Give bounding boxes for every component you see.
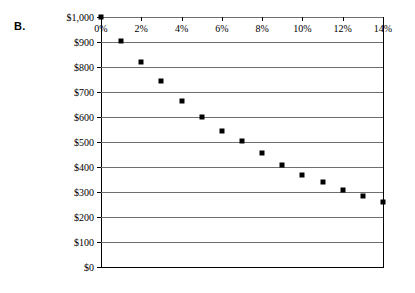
y-axis-tick-label: $0 bbox=[84, 262, 94, 273]
y-tick-mark bbox=[97, 192, 101, 193]
x-tick-mark bbox=[222, 17, 223, 21]
gridline bbox=[101, 267, 383, 268]
plot-right-border bbox=[383, 17, 384, 268]
y-axis-tick-label: $900 bbox=[74, 37, 94, 48]
data-point bbox=[260, 151, 265, 156]
x-axis-tick-label: 0% bbox=[94, 23, 107, 34]
data-point bbox=[119, 38, 124, 43]
data-point bbox=[240, 138, 245, 143]
data-point bbox=[320, 180, 325, 185]
y-tick-mark bbox=[97, 42, 101, 43]
y-axis-tick-label: $1,000 bbox=[67, 12, 95, 23]
y-tick-mark bbox=[97, 217, 101, 218]
y-axis-tick-label: $700 bbox=[74, 87, 94, 98]
data-point bbox=[360, 193, 365, 198]
gridline bbox=[101, 117, 383, 118]
scatter-plot-area: $0$100$200$300$400$500$600$700$800$900$1… bbox=[101, 17, 383, 267]
x-tick-mark bbox=[182, 17, 183, 21]
x-axis-tick-label: 8% bbox=[255, 23, 268, 34]
data-point bbox=[219, 128, 224, 133]
gridline bbox=[101, 67, 383, 68]
y-tick-mark bbox=[97, 242, 101, 243]
x-axis-tick-label: 4% bbox=[175, 23, 188, 34]
y-axis-tick-label: $400 bbox=[74, 162, 94, 173]
x-tick-mark bbox=[302, 17, 303, 21]
y-tick-mark bbox=[97, 92, 101, 93]
data-point bbox=[99, 15, 104, 20]
data-point bbox=[199, 115, 204, 120]
x-tick-mark bbox=[383, 17, 384, 21]
data-point bbox=[280, 162, 285, 167]
data-point bbox=[381, 200, 386, 205]
data-point bbox=[300, 172, 305, 177]
gridline bbox=[101, 242, 383, 243]
x-axis-tick-label: 12% bbox=[334, 23, 352, 34]
gridline bbox=[101, 217, 383, 218]
x-tick-mark bbox=[262, 17, 263, 21]
data-point bbox=[340, 187, 345, 192]
y-axis-tick-label: $500 bbox=[74, 137, 94, 148]
gridline bbox=[101, 92, 383, 93]
x-axis-tick-label: 14% bbox=[374, 23, 392, 34]
x-axis-tick-label: 10% bbox=[293, 23, 311, 34]
y-axis-tick-label: $200 bbox=[74, 212, 94, 223]
data-point bbox=[139, 60, 144, 65]
y-axis-tick-label: $300 bbox=[74, 187, 94, 198]
y-tick-mark bbox=[97, 117, 101, 118]
gridline bbox=[101, 192, 383, 193]
y-tick-mark bbox=[97, 142, 101, 143]
data-point bbox=[179, 98, 184, 103]
y-tick-mark bbox=[97, 167, 101, 168]
y-axis-tick-label: $600 bbox=[74, 112, 94, 123]
x-tick-mark bbox=[141, 17, 142, 21]
x-axis-tick-label: 6% bbox=[215, 23, 228, 34]
y-axis-tick-label: $100 bbox=[74, 237, 94, 248]
y-axis-tick-label: $800 bbox=[74, 62, 94, 73]
gridline bbox=[101, 167, 383, 168]
panel-label: B. bbox=[14, 20, 25, 32]
y-tick-mark bbox=[97, 67, 101, 68]
x-tick-mark bbox=[343, 17, 344, 21]
gridline bbox=[101, 17, 383, 18]
x-axis-tick-label: 2% bbox=[135, 23, 148, 34]
data-point bbox=[159, 78, 164, 83]
gridline bbox=[101, 42, 383, 43]
y-tick-mark bbox=[97, 267, 101, 268]
